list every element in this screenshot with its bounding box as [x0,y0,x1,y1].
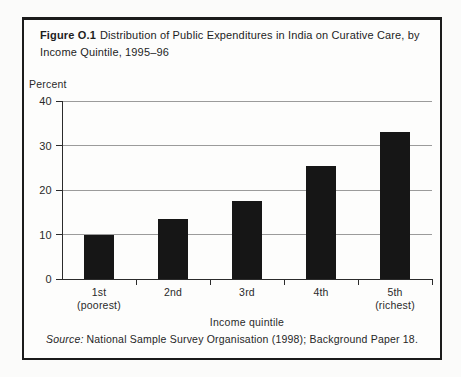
x-axis-line [62,279,433,280]
bar [158,219,188,279]
gridline [62,101,432,102]
x-category-label-line: (richest) [358,299,432,312]
x-category-label: 4th [284,286,358,299]
x-category-label-line: 4th [284,286,358,299]
figure-label: Figure O.1 [40,29,96,41]
bar [380,132,410,279]
x-tick [284,280,285,285]
x-category-label-line: 1st [62,286,136,299]
y-tick-label: 30 [26,139,52,153]
y-tick-label: 40 [26,94,52,108]
x-category-label: 5th(richest) [358,286,432,311]
x-category-label: 2nd [136,286,210,299]
source-prefix: Source: [46,333,84,345]
bar [84,235,114,280]
gridline [62,145,432,146]
bar-chart-plot: 0102030401st(poorest)2nd3rd4th5th(riches… [62,101,432,279]
figure-title-text: Distribution of Public Expenditures in I… [40,29,420,58]
bar [306,166,336,279]
x-tick [210,280,211,285]
source-note: Source:National Sample Survey Organisati… [32,333,432,345]
y-tick-label: 20 [26,183,52,197]
y-axis-label: Percent [29,78,67,90]
page: Figure O.1Distribution of Public Expendi… [0,0,461,377]
x-tick [432,280,433,285]
source-text: National Sample Survey Organisation (199… [87,333,418,345]
x-category-label: 1st(poorest) [62,286,136,311]
x-tick [136,280,137,285]
figure-box: Figure O.1Distribution of Public Expendi… [22,17,442,360]
x-category-label-line: (poorest) [62,299,136,312]
x-axis-label: Income quintile [62,316,432,328]
x-tick [358,280,359,285]
gridline [62,190,432,191]
y-axis-line [62,101,63,280]
x-category-label: 3rd [210,286,284,299]
bar [232,201,262,279]
y-tick-label: 0 [26,272,52,286]
x-category-label-line: 2nd [136,286,210,299]
x-category-label-line: 5th [358,286,432,299]
y-tick-label: 10 [26,228,52,242]
x-category-label-line: 3rd [210,286,284,299]
figure-title: Figure O.1Distribution of Public Expendi… [40,27,426,61]
